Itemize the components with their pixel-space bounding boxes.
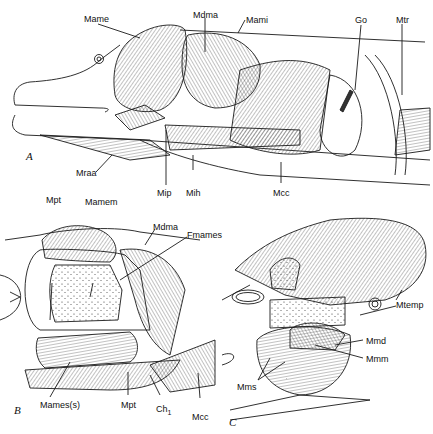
label-mcc-a: Mcc (273, 188, 290, 198)
label-mtr: Mtr (396, 15, 409, 25)
panel-letter-c: C (229, 416, 236, 428)
label-mtemp: Mtemp (396, 300, 424, 310)
label-mami: Mami (246, 15, 268, 25)
label-mraa: Mraa (76, 168, 97, 178)
label-mpt-bottom: Mpt (121, 400, 136, 410)
label-ch1: Ch1 (156, 404, 171, 418)
label-mames-s: Mames(s) (40, 400, 80, 410)
label-go: Go (355, 15, 367, 25)
label-mdma: Mdma (193, 10, 218, 20)
label-mmd: Mmd (366, 336, 386, 346)
label-fmames: Fmames (187, 230, 222, 240)
label-mms: Mms (237, 382, 257, 392)
label-mamem: Mamem (85, 197, 118, 207)
label-mip: Mip (157, 188, 172, 198)
panel-a-drawing (12, 18, 430, 185)
panel-letter-b: B (14, 404, 21, 416)
label-mame: Mame (84, 14, 109, 24)
label-mmm: Mmm (366, 354, 389, 364)
label-mpt-top: Mpt (46, 195, 61, 205)
panel-b-drawing (0, 226, 215, 398)
label-mih: Mih (186, 188, 201, 198)
label-mdma-b: Mdma (153, 222, 178, 232)
anatomical-drawing (0, 0, 433, 434)
label-mcc-b: Mcc (192, 412, 209, 422)
panel-letter-a: A (26, 150, 33, 162)
